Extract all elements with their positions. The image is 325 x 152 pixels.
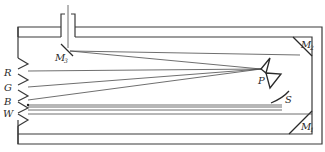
optical-diagram: M 3 M 2 M 1 P S: [0, 0, 325, 152]
mirror-m3: M 3: [54, 44, 73, 64]
label-b: B: [3, 96, 11, 107]
label-w: W: [3, 108, 14, 119]
prism-p: P: [257, 58, 281, 88]
label-m2-sub: 2: [309, 44, 314, 51]
label-m1-sub: 1: [310, 126, 314, 133]
slit-labels: R G B W: [3, 67, 14, 119]
mirror-m2: M 2: [293, 37, 314, 56]
screen-s: S: [271, 91, 292, 105]
label-g: G: [4, 82, 12, 93]
exit-slits: [18, 58, 29, 134]
outer-frame: [18, 27, 322, 144]
entrance-tube: [61, 5, 75, 48]
label-p: P: [257, 75, 265, 86]
label-m3-sub: 3: [64, 57, 68, 64]
label-s: S: [285, 94, 292, 105]
label-r: R: [3, 67, 12, 78]
mirror-m1: M 1: [289, 111, 314, 134]
